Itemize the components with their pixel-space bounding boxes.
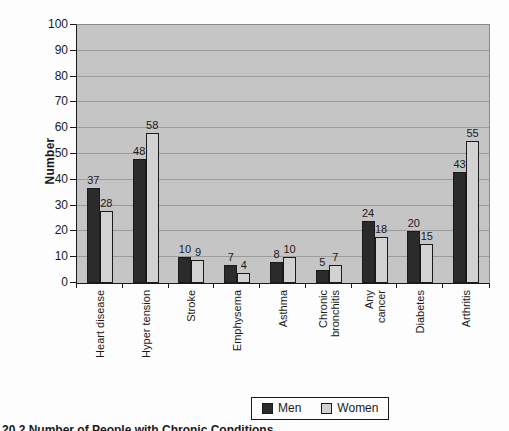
y-tick-mark [70,256,76,257]
legend-item-men: Men [262,401,301,415]
bar-value-label: 7 [320,251,350,263]
y-tick-label: 80 [34,70,68,83]
y-tick-label: 100 [34,18,68,31]
bar-women-asthma [283,257,296,283]
bar-men-chronic-bronchitis [316,270,329,283]
bar-value-label: 10 [275,243,305,255]
legend-item-women: Women [321,401,378,415]
bar-men-hyper-tension [133,159,146,283]
x-category-label: Asthma [277,290,289,327]
x-category-label: Chronic bronchitis [317,290,341,337]
legend-label-women: Women [337,401,378,415]
x-tick-mark [122,284,123,288]
gridline [77,101,489,102]
bar-women-diabetes [420,244,433,283]
bar-value-label: 37 [78,174,108,186]
y-tick-label: 30 [34,199,68,212]
y-tick-label: 90 [34,44,68,57]
cutoff-caption: 20.2 Number of People with Chronic Condi… [2,424,402,431]
y-tick-mark [70,230,76,231]
gridline [77,76,489,77]
x-category-label: Emphysema [231,290,243,351]
bar-men-stroke [178,257,191,283]
bar-value-label: 20 [399,217,429,229]
bar-value-label: 4 [229,259,259,271]
legend: Men Women [251,397,389,420]
x-category-label: Diabetes [414,290,426,333]
bar-women-any-cancer [375,237,388,283]
y-tick-mark [70,101,76,102]
figure: Number Men Women 20.2 Number of People w… [0,0,509,431]
x-tick-mark [76,284,77,288]
y-tick-mark [70,205,76,206]
x-category-label: Any cancer [363,290,387,323]
bar-value-label: 24 [353,207,383,219]
x-category-label: Heart disease [94,290,106,358]
bar-women-heart-disease [100,211,113,283]
bar-men-arthritis [453,172,466,283]
y-tick-label: 10 [34,250,68,263]
y-tick-label: 0 [34,276,68,289]
bar-men-asthma [270,262,283,283]
bar-women-emphysema [237,273,250,283]
x-tick-mark [351,284,352,288]
x-tick-mark [259,284,260,288]
y-tick-label: 50 [34,147,68,160]
bar-value-label: 58 [137,119,167,131]
x-tick-mark [168,284,169,288]
bar-value-label: 9 [183,246,213,258]
y-tick-mark [70,76,76,77]
y-tick-label: 40 [34,173,68,186]
x-category-label: Stroke [185,290,197,322]
y-tick-mark [70,127,76,128]
y-tick-mark [70,50,76,51]
y-tick-label: 70 [34,95,68,108]
x-category-label: Arthritis [460,290,472,327]
bar-value-label: 18 [366,223,396,235]
y-tick-label: 20 [34,224,68,237]
gridline [77,50,489,51]
bar-value-label: 55 [458,127,488,139]
y-tick-mark [70,153,76,154]
x-tick-mark [213,284,214,288]
y-tick-label: 60 [34,121,68,134]
x-tick-mark [489,284,490,288]
legend-swatch-men-icon [262,403,273,414]
x-category-label: Hyper tension [140,290,152,358]
legend-label-men: Men [278,401,301,415]
bar-value-label: 15 [412,230,442,242]
bar-value-label: 48 [124,145,154,157]
bar-women-stroke [191,260,204,283]
x-tick-mark [396,284,397,288]
x-tick-mark [442,284,443,288]
y-tick-mark [70,179,76,180]
legend-swatch-women-icon [321,403,332,414]
bar-value-label: 28 [91,197,121,209]
y-tick-mark [70,282,76,283]
x-tick-mark [305,284,306,288]
y-tick-mark [70,24,76,25]
bar-value-label: 43 [445,158,475,170]
